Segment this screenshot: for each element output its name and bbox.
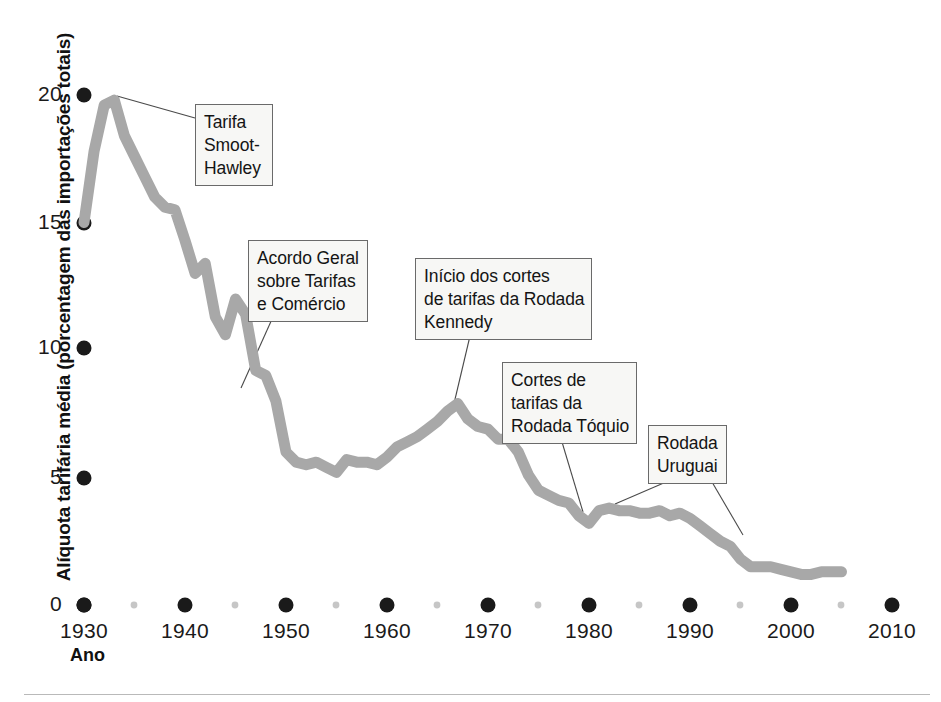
annotation-smoot-hawley-line3: Hawley — [204, 157, 264, 180]
y-tick-20 — [77, 88, 92, 103]
x-minor-tick-1965 — [434, 602, 441, 609]
x-tick-1960 — [380, 598, 395, 613]
x-tick-label-1930: 1930 — [44, 619, 124, 643]
annotation-tokyo-round: Cortes de tarifas da Rodada Tóquio — [502, 362, 637, 444]
x-tick-label-2010: 2010 — [852, 619, 932, 643]
chart-plot-area — [0, 0, 941, 702]
annotation-kennedy-round: Início dos cortes de tarifas da Rodada K… — [415, 258, 592, 340]
x-tick-label-1980: 1980 — [549, 619, 629, 643]
x-tick-label-1960: 1960 — [347, 619, 427, 643]
x-axis-title: Ano — [70, 645, 105, 666]
annotation-tokyo-line2: tarifas da — [511, 392, 628, 415]
x-tick-1980 — [582, 598, 597, 613]
annotation-smoot-hawley: Tarifa Smoot- Hawley — [195, 104, 273, 186]
annotation-gatt-line1: Acordo Geral — [257, 247, 359, 270]
x-tick-label-1950: 1950 — [246, 619, 326, 643]
y-tick-10 — [77, 341, 92, 356]
x-minor-tick-1955 — [333, 602, 340, 609]
annotation-uruguay-line2: Uruguai — [657, 455, 718, 478]
x-tick-1970 — [481, 598, 496, 613]
x-minor-tick-1975 — [535, 602, 542, 609]
x-tick-label-2000: 2000 — [751, 619, 831, 643]
x-minor-tick-1945 — [232, 602, 239, 609]
leader-line-uruguay-b — [712, 482, 743, 535]
annotation-kennedy-line1: Início dos cortes — [424, 265, 583, 288]
x-minor-tick-2005 — [838, 602, 845, 609]
leader-line-smoot-hawley — [117, 96, 195, 118]
y-tick-label-5: 5 — [20, 465, 62, 489]
x-tick-2000 — [784, 598, 799, 613]
x-tick-1950 — [279, 598, 294, 613]
x-minor-tick-1985 — [636, 602, 643, 609]
x-tick-label-1940: 1940 — [145, 619, 225, 643]
leader-line-uruguay-a — [615, 482, 666, 504]
annotation-smoot-hawley-line2: Smoot- — [204, 134, 264, 157]
annotation-gatt-line2: sobre Tarifas — [257, 270, 359, 293]
y-tick-0 — [77, 598, 92, 613]
annotation-tokyo-line3: Rodada Tóquio — [511, 415, 628, 438]
annotation-tokyo-line1: Cortes de — [511, 369, 628, 392]
annotation-gatt-line3: e Comércio — [257, 293, 359, 316]
tariff-rate-chart-figure: Alíquota tarifária média (porcentagem da… — [0, 0, 941, 702]
annotation-smoot-hawley-line1: Tarifa — [204, 111, 264, 134]
x-tick-1990 — [683, 598, 698, 613]
y-tick-label-0: 0 — [20, 592, 62, 616]
footer-divider — [24, 694, 930, 695]
x-minor-tick-1935 — [131, 602, 138, 609]
y-tick-label-10: 10 — [20, 335, 62, 359]
y-tick-label-20: 20 — [20, 82, 62, 106]
annotation-kennedy-line2: de tarifas da Rodada — [424, 288, 583, 311]
x-tick-label-1990: 1990 — [650, 619, 730, 643]
x-tick-1940 — [178, 598, 193, 613]
annotation-gatt: Acordo Geral sobre Tarifas e Comércio — [248, 240, 368, 322]
x-axis-major-ticks — [77, 598, 900, 613]
x-tick-label-1970: 1970 — [448, 619, 528, 643]
x-tick-2010 — [885, 598, 900, 613]
annotation-uruguay-round: Rodada Uruguai — [648, 425, 727, 484]
annotation-kennedy-line3: Kennedy — [424, 311, 583, 334]
annotation-uruguay-line1: Rodada — [657, 432, 718, 455]
y-tick-label-15: 15 — [20, 210, 62, 234]
y-tick-5 — [77, 471, 92, 486]
x-minor-tick-1995 — [737, 602, 744, 609]
